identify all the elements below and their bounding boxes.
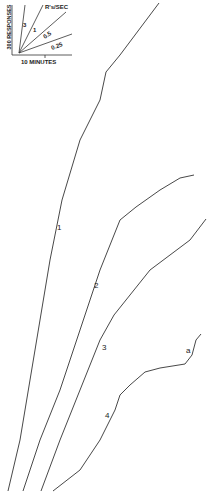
- curve-2: [23, 175, 194, 491]
- rate-1: 1: [33, 27, 36, 33]
- curve-label-1: 1: [57, 223, 61, 232]
- curve-label-3: 3: [102, 343, 106, 352]
- rate-label: R's/SEC: [45, 4, 68, 10]
- curve-label-a: a: [186, 346, 190, 355]
- rate-3: 3: [23, 22, 26, 28]
- curve-4: [53, 334, 201, 491]
- x-scale-label: 10 MINUTES: [21, 59, 56, 65]
- curve-3: [41, 219, 206, 491]
- curve-1: [8, 3, 159, 491]
- y-scale-label: 300 RESPONSES: [6, 5, 12, 50]
- curve-label-4: 4: [105, 411, 109, 420]
- inset-scale: [12, 5, 72, 58]
- curve-label-2: 2: [94, 281, 98, 290]
